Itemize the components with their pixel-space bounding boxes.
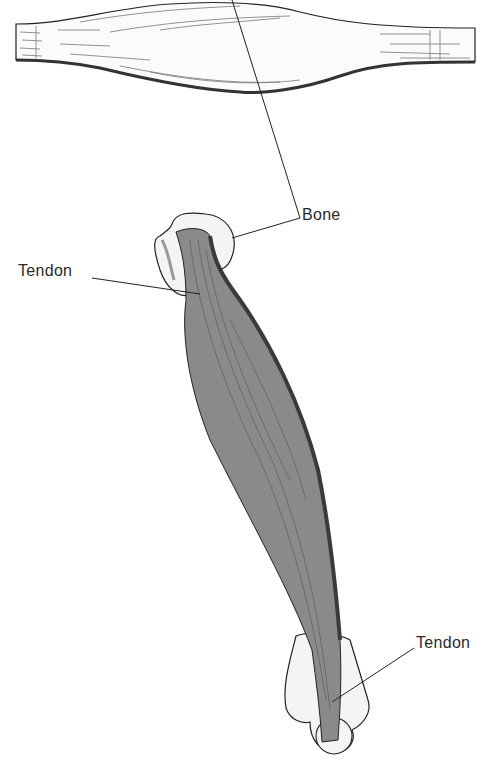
tendon-label-bottom: Tendon xyxy=(416,634,470,652)
isolated-muscle-illustration xyxy=(16,2,475,92)
muscle-diagram xyxy=(0,0,485,762)
bone-label: Bone xyxy=(302,206,341,224)
attached-muscle-illustration xyxy=(155,213,369,754)
tendon-label-top: Tendon xyxy=(18,262,72,280)
muscle-belly xyxy=(176,229,341,742)
